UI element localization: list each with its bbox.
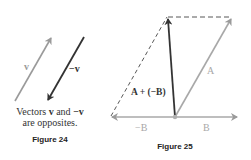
vector-v-arrow bbox=[15, 38, 51, 101]
figure-24-title: Figure 24 bbox=[0, 135, 100, 144]
caption-text: Vectors bbox=[16, 106, 49, 117]
label-neg-B: −B bbox=[135, 122, 147, 133]
figure-25-title: Figure 25 bbox=[150, 142, 200, 151]
origin-point bbox=[173, 115, 177, 119]
label-A: A bbox=[207, 65, 214, 76]
caption-text: and bbox=[54, 106, 73, 117]
label-neg-v: −v bbox=[69, 63, 80, 74]
caption-line-1: Vectors v and −v bbox=[0, 106, 100, 117]
label-v: v bbox=[24, 61, 29, 72]
caption-neg-v: −v bbox=[73, 106, 84, 117]
vector-sum-arrow bbox=[168, 19, 175, 117]
dashed-left-side bbox=[111, 17, 167, 116]
vector-A-arrow bbox=[175, 19, 231, 117]
label-sum: A + (−B) bbox=[131, 87, 166, 97]
caption-line-2: are opposites. bbox=[0, 117, 100, 128]
label-B: B bbox=[203, 122, 210, 133]
